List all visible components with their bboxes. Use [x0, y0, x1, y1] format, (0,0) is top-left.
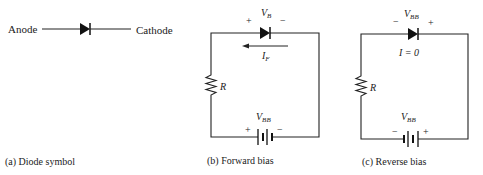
- wire-right: [270, 33, 319, 137]
- battery-icon: [258, 129, 272, 145]
- diode-voltage-label: VB: [261, 7, 272, 20]
- wire-top-left: [211, 33, 260, 73]
- resistor-label: R: [369, 82, 376, 93]
- diode-plus: +: [428, 17, 434, 28]
- resistor-label: R: [219, 81, 226, 92]
- resistor-icon: [206, 73, 216, 97]
- panel-a-diode-symbol: Anode Cathode (a) Diode symbol: [5, 23, 173, 168]
- arrow-left-icon: [242, 44, 249, 49]
- battery-plus: +: [245, 124, 251, 135]
- battery-minus: −: [392, 126, 398, 137]
- diode-voltage-label: VBB: [404, 8, 419, 21]
- source-voltage-label: VBB: [256, 111, 271, 124]
- diode-triangle-icon: [408, 28, 418, 40]
- panel-c-reverse-bias: R − + VBB − VBB + I = 0 (c) Reverse bias: [356, 8, 468, 168]
- battery-plus: +: [423, 126, 429, 137]
- diode-bias-diagram: Anode Cathode (a) Diode symbol R + − VBB…: [0, 0, 483, 175]
- caption-b: (b) Forward bias: [207, 155, 274, 167]
- resistor-icon: [356, 74, 366, 98]
- current-zero-label: I = 0: [398, 47, 419, 58]
- wire-bottom-left: [211, 97, 258, 137]
- diode-plus: +: [246, 15, 252, 26]
- cathode-label: Cathode: [136, 24, 173, 36]
- diode-triangle-icon: [260, 27, 270, 39]
- source-voltage-label: VBB: [401, 111, 416, 124]
- diode-triangle-icon: [80, 23, 90, 35]
- caption-a: (a) Diode symbol: [5, 156, 75, 168]
- battery-icon: [404, 131, 418, 147]
- caption-c: (c) Reverse bias: [362, 156, 427, 168]
- diode-minus: −: [280, 15, 286, 26]
- anode-label: Anode: [8, 23, 37, 35]
- wire-right: [418, 34, 468, 139]
- panel-b-forward-bias: R + − VBB + VB − IF (b) Forward bias: [206, 7, 319, 167]
- diode-minus: −: [393, 16, 399, 27]
- current-label: IF: [261, 50, 270, 63]
- battery-minus: −: [277, 124, 283, 135]
